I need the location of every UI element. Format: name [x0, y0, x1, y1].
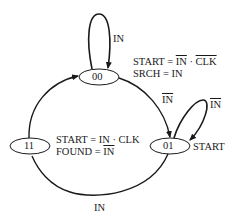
- transition-11-to-00: [29, 76, 78, 138]
- transition-01-self-loop: [174, 100, 207, 140]
- transition-00-self-loop: [89, 14, 110, 69]
- state-11-output-found: FOUND = IN: [56, 146, 114, 157]
- state-01-output-start: START: [193, 141, 225, 152]
- transition-01-to-11: [32, 154, 168, 195]
- output-in-negated: IN: [103, 146, 114, 157]
- state-00-output-start: START = IN · CLK: [133, 56, 217, 67]
- output-in-negated: IN: [176, 56, 187, 67]
- transition-00-to-01: [119, 78, 170, 137]
- transition-01-to-11-label: IN: [94, 202, 105, 213]
- transition-01-self-loop-label: IN: [210, 99, 221, 110]
- output-dot: ·: [187, 56, 196, 67]
- state-01-label: 01: [163, 140, 174, 151]
- state-11-label: 11: [24, 140, 34, 151]
- transition-00-self-loop-label: IN: [113, 33, 124, 44]
- state-11-output-start: START = IN · CLK: [56, 134, 140, 145]
- state-00-label: 00: [92, 71, 103, 82]
- output-lhs: FOUND =: [56, 146, 103, 157]
- output-clk-negated: CLK: [196, 56, 217, 67]
- transition-00-to-01-label: IN: [162, 94, 173, 105]
- state-00-output-srch: SRCH = IN: [133, 68, 183, 79]
- output-lhs: START =: [133, 56, 176, 67]
